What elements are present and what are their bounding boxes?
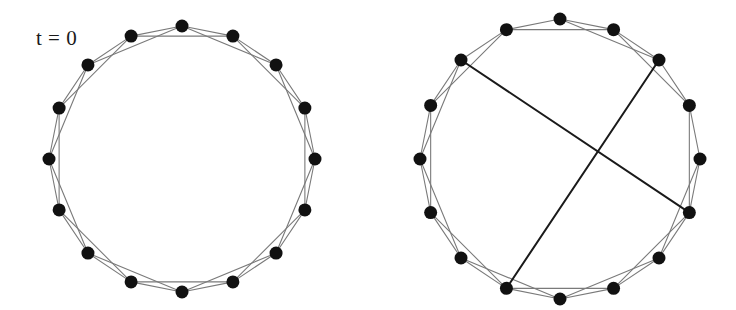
lattice-edge: [560, 288, 614, 299]
graph-node: [270, 247, 283, 260]
graph-node: [226, 30, 239, 43]
graph-node: [298, 203, 311, 216]
graph-node: [500, 282, 513, 295]
lattice-edge: [431, 213, 507, 289]
lattice-edge: [233, 36, 305, 108]
network-diagram-canvas: [0, 0, 736, 310]
graph-node: [125, 275, 138, 288]
lattice-edge: [461, 258, 506, 288]
lattice-edge: [614, 30, 690, 106]
lattice-edge: [49, 108, 59, 159]
lattice-edge: [233, 253, 276, 282]
lattice-edge: [59, 210, 88, 253]
lattice-edge: [614, 258, 659, 288]
lattice-edge: [59, 65, 88, 108]
graph-node: [607, 282, 620, 295]
lattice-edge: [276, 65, 305, 108]
graph-node: [43, 153, 56, 166]
graph-node: [414, 153, 427, 166]
lattice-edge: [506, 288, 560, 299]
graph-node: [298, 102, 311, 115]
lattice-edge: [659, 60, 689, 105]
graph-node: [270, 58, 283, 71]
graph-node: [500, 23, 513, 36]
rewired-chord-edge: [506, 60, 659, 288]
graph-node: [683, 206, 696, 219]
lattice-edge: [420, 159, 431, 213]
lattice-edge: [506, 19, 560, 30]
rewired-chord-edge: [461, 60, 689, 213]
graph-node: [607, 23, 620, 36]
graph-node: [694, 153, 707, 166]
lattice-edge: [614, 213, 690, 289]
graph-node: [81, 58, 94, 71]
lattice-edge: [49, 159, 59, 210]
time-label-t0: t = 0: [36, 26, 77, 51]
node-layer: [414, 13, 707, 306]
lattice-edge: [431, 30, 507, 106]
lattice-edge: [305, 108, 315, 159]
lattice-edge: [431, 213, 461, 258]
lattice-edge: [431, 60, 461, 105]
graph-node: [424, 206, 437, 219]
rewired-small-world-network: [414, 13, 707, 306]
lattice-edge: [182, 26, 233, 36]
lattice-edge: [233, 210, 305, 282]
graph-node: [554, 293, 567, 306]
graph-node: [652, 54, 665, 67]
node-layer: [43, 20, 322, 299]
graph-node: [176, 20, 189, 33]
lattice-edge: [88, 36, 131, 65]
lattice-edge: [560, 19, 614, 30]
lattice-edge: [88, 253, 131, 282]
graph-node: [176, 286, 189, 299]
graph-node: [53, 102, 66, 115]
lattice-edge: [420, 105, 431, 159]
regular-ring-lattice: [43, 20, 322, 299]
graph-node: [81, 247, 94, 260]
graph-node: [424, 99, 437, 112]
lattice-edge: [276, 210, 305, 253]
figure-root: t = 0: [0, 0, 736, 310]
graph-node: [53, 203, 66, 216]
graph-node: [455, 251, 468, 264]
lattice-edge: [131, 26, 182, 36]
lattice-edge: [305, 159, 315, 210]
graph-node: [683, 99, 696, 112]
lattice-edge: [689, 159, 700, 213]
lattice-edge: [659, 213, 689, 258]
lattice-edge: [182, 282, 233, 292]
graph-node: [554, 13, 567, 26]
lattice-edge: [233, 36, 276, 65]
lattice-edge: [461, 30, 506, 60]
graph-node: [652, 251, 665, 264]
lattice-edge: [59, 210, 131, 282]
graph-node: [455, 54, 468, 67]
lattice-edge: [689, 105, 700, 159]
graph-node: [226, 275, 239, 288]
lattice-edge: [131, 282, 182, 292]
lattice-edge: [614, 30, 659, 60]
graph-node: [125, 30, 138, 43]
graph-node: [309, 153, 322, 166]
